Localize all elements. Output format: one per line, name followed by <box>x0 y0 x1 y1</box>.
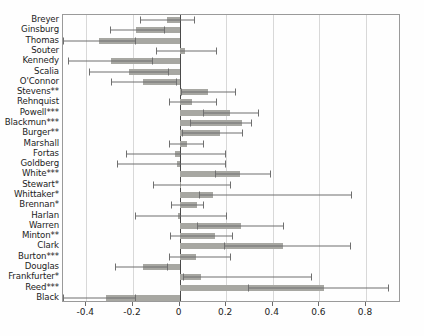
y-axis-tick-label: Goldberg <box>20 159 59 168</box>
error-bar-cap-high <box>388 284 389 291</box>
y-axis-tick-label: Fortas <box>33 148 59 157</box>
error-bar <box>169 256 230 257</box>
y-axis-tick-label: Stevens** <box>17 87 59 96</box>
error-bar <box>140 20 194 21</box>
y-axis-tick-label: Minton** <box>22 231 59 240</box>
error-bar <box>115 267 166 268</box>
y-axis-tick-label: Scalia <box>34 66 59 75</box>
x-axis-tick-label: 0.4 <box>265 307 279 317</box>
error-bar-cap-low <box>182 130 183 137</box>
gridline <box>226 15 227 301</box>
error-bar-cap-low <box>169 99 170 106</box>
error-bar-cap-low <box>115 264 116 271</box>
y-axis-tick-label: Stewart* <box>22 179 59 188</box>
y-axis-tick-label: Brennan* <box>19 200 59 209</box>
error-bar <box>111 81 176 82</box>
error-bar-cap-high <box>164 27 165 34</box>
error-bar-cap-high <box>270 171 271 178</box>
error-bar <box>135 215 226 216</box>
error-bar <box>182 133 243 134</box>
error-bar <box>68 61 152 62</box>
error-bar-cap-high <box>176 78 177 85</box>
error-bar-cap-high <box>135 294 136 301</box>
x-axis-tick-label: 0.2 <box>218 307 232 317</box>
x-axis-tick-label: 0.8 <box>358 307 372 317</box>
error-bar <box>110 30 165 31</box>
y-axis-tick-label: Ginsburg <box>21 25 59 34</box>
error-bar-cap-low <box>183 274 184 281</box>
y-axis-tick-label: Rehnquist <box>17 97 59 106</box>
error-bar-cap-low <box>215 171 216 178</box>
y-axis-tick-label: White*** <box>22 169 59 178</box>
error-bar-cap-low <box>190 120 191 127</box>
y-axis-tick-label: O'Connor <box>20 76 59 85</box>
x-axis-tick-label: -0.4 <box>77 307 95 317</box>
plot-area <box>62 14 400 302</box>
error-bar-cap-low <box>140 17 141 24</box>
y-axis-tick-label: Frankfurter* <box>8 272 59 281</box>
y-axis-tick-label: Warren <box>29 220 59 229</box>
error-bar <box>169 102 216 103</box>
x-axis-tick-label: 0 <box>176 307 182 317</box>
x-axis-tick-label: -0.2 <box>123 307 141 317</box>
y-axis-tick-label: Breyer <box>31 15 59 24</box>
error-bar <box>181 92 236 93</box>
error-bar-cap-high <box>152 58 153 65</box>
x-axis-tick <box>179 302 180 306</box>
error-bar <box>199 195 351 196</box>
gridline <box>319 15 320 301</box>
error-bar-cap-high <box>258 109 259 116</box>
gridline <box>273 15 274 301</box>
y-axis-tick-label: Marshall <box>24 138 59 147</box>
error-bar <box>63 297 135 298</box>
error-bar-cap-low <box>171 202 172 209</box>
error-bar-cap-high <box>203 140 204 147</box>
error-bar-cap-low <box>199 192 200 199</box>
error-bar-cap-high <box>225 161 226 168</box>
x-axis-tick <box>272 302 273 306</box>
error-bar <box>89 71 168 72</box>
error-bar-cap-high <box>226 212 227 219</box>
y-axis-tick-label: Burton*** <box>18 251 59 260</box>
error-bar-cap-low <box>169 140 170 147</box>
error-bar <box>171 205 202 206</box>
error-bar <box>215 174 271 175</box>
error-bar-cap-high <box>351 192 352 199</box>
error-bar-cap-high <box>350 243 351 250</box>
y-axis-tick-label: Black <box>36 292 59 301</box>
error-bar-cap-high <box>232 233 233 240</box>
bar-chart-figure: BreyerGinsburgThomasSouterKennedyScaliaO… <box>0 0 424 336</box>
y-axis-tick-label: Douglas <box>25 262 59 271</box>
error-bar <box>169 143 203 144</box>
error-bar-cap-high <box>235 89 236 96</box>
y-axis-tick-label: Harlan <box>31 210 59 219</box>
y-axis-tick-label: Thomas <box>26 35 59 44</box>
error-bar <box>117 164 225 165</box>
error-bar <box>126 153 225 154</box>
y-axis-tick-label: Clark <box>37 241 59 250</box>
error-bar-cap-low <box>126 150 127 157</box>
error-bar-cap-low <box>63 294 64 301</box>
error-bar-cap-low <box>169 253 170 260</box>
error-bar <box>153 184 230 185</box>
error-bar <box>183 277 311 278</box>
error-bar-cap-low <box>181 89 182 96</box>
x-axis-tick <box>225 302 226 306</box>
error-bar-cap-high <box>167 264 168 271</box>
error-bar-cap-high <box>225 150 226 157</box>
error-bar-cap-high <box>216 99 217 106</box>
error-bar-cap-low <box>68 58 69 65</box>
error-bar-cap-low <box>156 48 157 55</box>
x-axis-tick-label: 0.6 <box>311 307 325 317</box>
error-bar-cap-low <box>197 222 198 229</box>
error-bar-cap-high <box>135 37 136 44</box>
error-bar <box>63 40 135 41</box>
x-axis-tick <box>318 302 319 306</box>
error-bar-cap-low <box>203 109 204 116</box>
error-bar-cap-low <box>89 68 90 75</box>
error-bar-cap-high <box>230 253 231 260</box>
error-bar <box>203 112 258 113</box>
error-bar-cap-high <box>168 68 169 75</box>
y-axis-tick-label: Kennedy <box>22 56 59 65</box>
error-bar-cap-low <box>63 37 64 44</box>
